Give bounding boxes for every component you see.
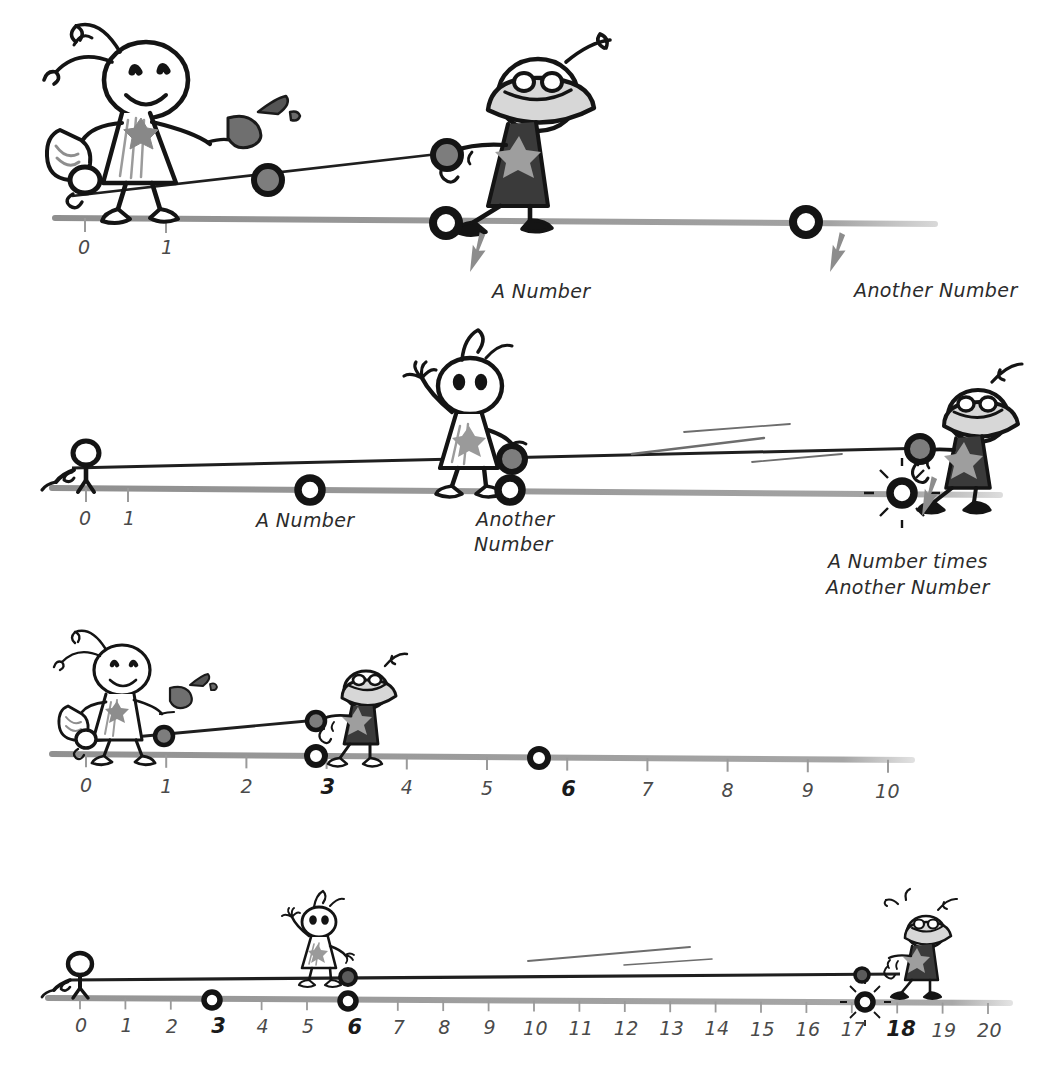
marker-filled-dot-at-six [340,969,356,985]
marker-hollow-at-eighteen [857,994,873,1010]
panel-1-canvas: A Number Another Number 0 1 [0,0,1050,320]
tick-label-17: 17 [841,1018,866,1040]
annotation-arrow-a-number [462,232,492,274]
marker-hollow-at-three [204,992,220,1008]
label-product-line1: A Number times [826,550,988,572]
tick-label-18: 18 [886,1017,916,1041]
tick-label-15: 15 [750,1018,775,1040]
tick-label-9: 9 [484,1016,497,1038]
tick-label-5: 5 [302,1015,315,1037]
tick-label-3: 3 [211,1014,226,1038]
marker-filled-dot-product [907,436,933,462]
marker-filled-dot-at-one [155,727,173,745]
tick-label-9: 9 [802,779,815,801]
tick-label-20: 20 [977,1019,1002,1041]
tick-label-1: 1 [123,507,136,529]
tick-label-16: 16 [795,1018,820,1040]
panel-2-canvas: 0 1 A Number Another Number A Number tim… [0,320,1050,620]
number-line-axis [52,754,912,773]
character-boy-with-hat [441,34,610,235]
tick-label-10: 10 [875,780,900,802]
tick-label-6: 6 [347,1015,362,1039]
character-small-stick-figure-at-zero [42,441,99,492]
panel-abstract-a-number: A Number Another Number 0 1 [0,0,1050,320]
marker-hollow-a-number [433,210,459,236]
panel-4-canvas: 01234567891011121314151617181920 [0,870,1050,1089]
number-line-axis [52,488,1000,502]
marker-filled-dot-at-eighteen [855,968,869,982]
marker-hollow-at-six [530,749,548,767]
tick-label-14: 14 [705,1017,730,1039]
marker-hollow-at-six [340,993,356,1009]
marker-hollow-a-number [298,478,322,502]
label-another-number: Another Number [852,279,1018,301]
tick-label-0: 0 [80,774,93,796]
tick-label-19: 19 [932,1019,957,1041]
tick-label-8: 8 [722,779,735,801]
speed-lines [632,424,842,462]
tick-label-3: 3 [321,775,336,799]
marker-hollow-another-number [793,209,819,235]
panel-concrete-product: 01234567891011121314151617181920 [0,870,1050,1089]
character-boy-with-hat [319,654,407,767]
marker-filled-dot-at-three [307,712,325,730]
label-another-number-line2: Number [474,533,554,555]
character-girl-with-paint-can [54,631,217,765]
stretch-rope-line [70,974,900,980]
tick-label-4: 4 [401,776,414,798]
tick-label-11: 11 [568,1017,593,1039]
tick-label-4: 4 [257,1015,270,1037]
tick-label-1: 1 [120,1014,132,1036]
tick-label-2: 2 [166,1015,179,1037]
tick-label-1: 1 [161,236,174,258]
marker-hollow-another-number [498,478,522,502]
panel-3-canvas: 012345678910 [0,620,1050,870]
tick-label-0: 0 [79,507,92,529]
panel-concrete-one-to-three: 012345678910 [0,620,1050,870]
tick-label-12: 12 [614,1017,639,1039]
tick-label-10: 10 [523,1017,548,1039]
annotation-arrow-another-number [822,232,852,274]
marker-hollow-at-three [307,747,325,765]
marker-hollow-product [890,481,914,505]
character-boy-with-hat-flying [884,889,957,999]
marker-filled-dot-pulled [433,141,461,169]
tick-label-0: 0 [75,1014,88,1036]
tick-label-7: 7 [393,1016,406,1038]
tick-label-0: 0 [78,236,91,258]
marker-filled-dot-one [254,166,282,194]
tick-label-6: 6 [561,777,576,801]
marker-filled-dot-another-number [499,446,525,472]
tick-label-5: 5 [481,777,494,799]
tick-label-2: 2 [240,775,253,797]
tick-label-13: 13 [659,1017,684,1039]
panel-abstract-product: 0 1 A Number Another Number A Number tim… [0,320,1050,620]
character-small-stick-figure-at-zero [42,953,92,998]
label-a-number: A Number [490,280,591,302]
tick-label-1: 1 [160,775,173,797]
label-product-line2: Another Number [824,576,990,598]
tick-label-8: 8 [438,1016,451,1038]
label-a-number: A Number [254,509,355,531]
tick-label-7: 7 [641,778,654,800]
label-another-number-line1: Another [474,508,555,530]
